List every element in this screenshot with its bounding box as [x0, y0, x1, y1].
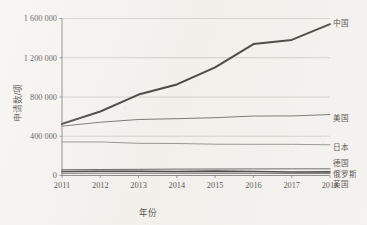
series-label-日本: 日本 — [333, 142, 349, 152]
axis-tickmarks — [60, 19, 331, 179]
y-axis-tick-labels: 0400 000800 0001 200 0001 600 000 — [24, 14, 57, 180]
series-label-中国: 中国 — [333, 18, 349, 28]
y-tick-label: 800 000 — [30, 93, 57, 102]
series-label-英国: 英国 — [333, 179, 349, 189]
series-end-labels: 中国美国日本德国俄罗斯英国 — [333, 18, 357, 189]
y-tick-label: 1 600 000 — [24, 14, 57, 23]
series-line-德国 — [62, 169, 330, 170]
series-line-日本 — [62, 142, 330, 145]
x-tick-label: 2011 — [54, 181, 70, 190]
series-label-美国: 美国 — [333, 113, 349, 123]
series-line-美国 — [62, 115, 330, 127]
series-line-中国 — [62, 24, 330, 124]
x-tick-label: 2013 — [130, 181, 147, 190]
y-tick-label: 400 000 — [30, 132, 57, 141]
x-tick-label: 2017 — [283, 181, 300, 190]
series-line-俄罗斯 — [62, 171, 330, 172]
chart-canvas: 0400 000800 0001 200 0001 600 000 201120… — [0, 0, 367, 225]
data-series-lines — [62, 24, 330, 173]
y-tick-label: 0 — [53, 171, 57, 180]
series-label-俄罗斯: 俄罗斯 — [333, 169, 357, 179]
x-axis-tick-labels: 20112012201320142015201620172018 — [54, 181, 338, 190]
x-tick-label: 2012 — [92, 181, 109, 190]
series-label-德国: 德国 — [333, 158, 349, 168]
y-axis-title: 申请数/项 — [12, 84, 23, 123]
x-tick-label: 2014 — [169, 181, 186, 190]
x-tick-label: 2015 — [207, 181, 224, 190]
x-axis-title: 年份 — [139, 207, 157, 218]
line-chart: 0400 000800 0001 200 0001 600 000 201120… — [0, 0, 367, 225]
y-tick-label: 1 200 000 — [24, 54, 57, 63]
x-tick-label: 2016 — [245, 181, 262, 190]
